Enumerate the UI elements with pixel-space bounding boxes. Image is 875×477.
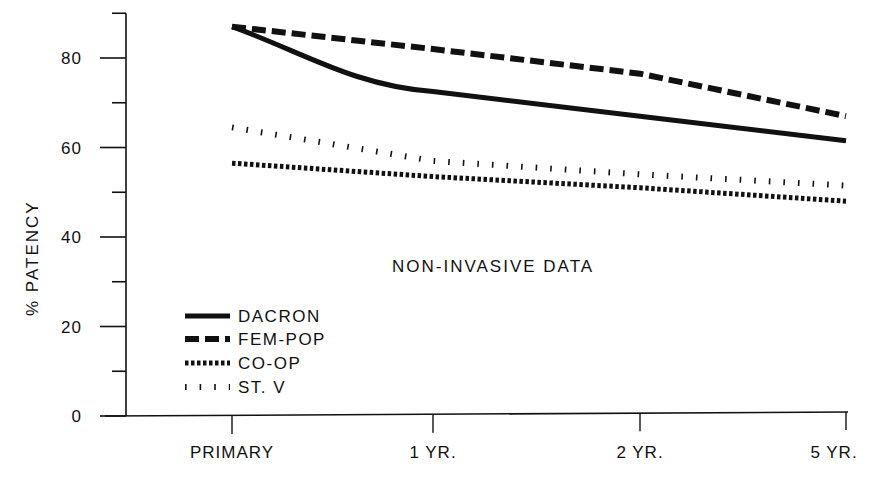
- series-line-st-v: [232, 127, 846, 185]
- y-axis-title: % PATENCY: [23, 200, 42, 316]
- x-tick-label: 5 YR.: [810, 443, 857, 462]
- chart-annotation: NON-INVASIVE DATA: [392, 257, 594, 276]
- x-tick-label: PRIMARY: [190, 443, 274, 462]
- axes: 020406080PRIMARY1 YR.2 YR.5 YR.: [61, 13, 858, 462]
- y-tick-label: 80: [61, 49, 82, 68]
- legend-label: ST. V: [238, 378, 286, 397]
- x-tick-label: 1 YR.: [409, 443, 456, 462]
- legend-label: DACRON: [238, 307, 321, 326]
- legend-label: FEM-POP: [238, 330, 326, 349]
- x-axis-line: [105, 412, 848, 416]
- series-line-dacron: [232, 27, 846, 141]
- line-chart: 020406080PRIMARY1 YR.2 YR.5 YR. NON-INVA…: [0, 0, 875, 477]
- y-tick-label: 40: [61, 228, 82, 247]
- series-lines: [232, 27, 846, 202]
- legend-label: CO-OP: [238, 354, 301, 373]
- y-tick-label: 20: [61, 318, 82, 337]
- x-tick-label: 2 YR.: [616, 443, 663, 462]
- y-tick-label: 60: [61, 139, 82, 158]
- series-line-co-op: [232, 163, 846, 201]
- legend: DACRONFEM-POPCO-OPST. V: [185, 307, 326, 397]
- y-tick-label: 0: [72, 407, 82, 426]
